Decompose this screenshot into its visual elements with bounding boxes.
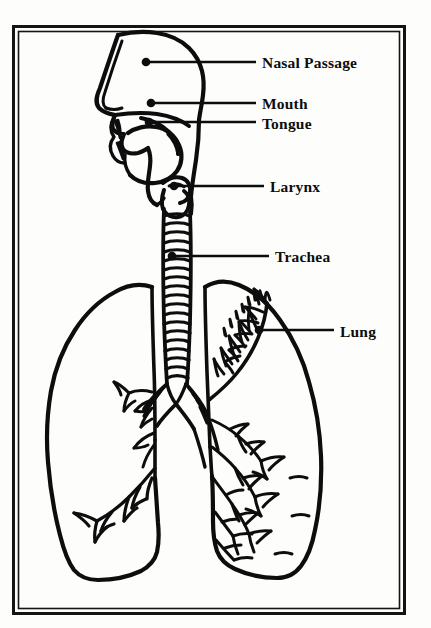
label-nasal-passage: Nasal Passage xyxy=(262,54,357,71)
label-tongue: Tongue xyxy=(262,115,312,132)
label-larynx: Larynx xyxy=(270,178,320,195)
diagram-canvas: Nasal Passage Mouth Tongue Larynx Trache… xyxy=(0,0,431,628)
label-lung: Lung xyxy=(340,323,376,340)
label-trachea: Trachea xyxy=(275,248,330,265)
label-mouth: Mouth xyxy=(262,95,308,112)
